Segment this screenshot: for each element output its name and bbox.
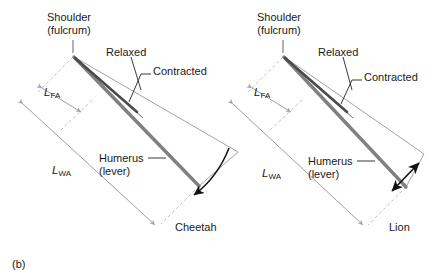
cheetah-lwa-subscript: WA	[58, 169, 71, 178]
cheetah-lfa-subscript: FA	[50, 91, 60, 100]
cheetah-humerus-line1: Humerus	[99, 152, 144, 165]
lion-diagram	[233, 40, 424, 225]
cheetah-shoulder-line1: Shoulder	[47, 11, 91, 24]
cheetah-lfa-label: LFA	[44, 86, 60, 101]
lever-diagram-svg	[0, 0, 443, 280]
cheetah-muscle-contracted	[75, 58, 137, 112]
lion-shoulder-fulcrum-label: Shoulder (fulcrum)	[257, 11, 301, 36]
cheetah-dashed-inlever-end	[60, 100, 92, 131]
cheetah-rotation-arrow	[194, 148, 229, 195]
lion-dashed-inlever-end	[268, 100, 302, 132]
panel-caption: (b)	[12, 258, 25, 270]
lion-humerus-line2: (lever)	[308, 168, 353, 181]
lion-muscle-contracted	[285, 58, 347, 112]
lion-relaxed-leader	[343, 57, 352, 90]
cheetah-shoulder-fulcrum-label: Shoulder (fulcrum)	[47, 11, 91, 36]
figure-panel-b: Shoulder (fulcrum) Relaxed Contracted LF…	[0, 0, 443, 280]
lion-shoulder-line2: (fulcrum)	[257, 24, 301, 37]
lion-dashed-humerus-end	[368, 187, 406, 225]
lion-relaxed-label: Relaxed	[318, 46, 358, 59]
cheetah-contracted-leader	[129, 74, 141, 102]
lion-animal-label: Lion	[389, 221, 410, 234]
cheetah-humerus-line2: (lever)	[99, 165, 144, 178]
lion-humerus-line1: Humerus	[308, 155, 353, 168]
lion-outer-guide-distal	[406, 154, 424, 187]
lion-lfa-label: LFA	[254, 86, 270, 101]
lion-lfa-subscript: FA	[260, 91, 270, 100]
lion-lwa-label: LWA	[262, 167, 281, 182]
cheetah-animal-label: Cheetah	[175, 221, 217, 234]
lion-contracted-label: Contracted	[364, 71, 418, 84]
cheetah-contracted-label: Contracted	[153, 65, 207, 78]
cheetah-lwa-label: LWA	[52, 164, 71, 179]
lion-humerus-lever-label: Humerus (lever)	[308, 155, 353, 180]
lion-lwa-subscript: WA	[268, 172, 281, 181]
cheetah-dashed-humerus-end	[161, 186, 199, 224]
cheetah-shoulder-line2: (fulcrum)	[47, 24, 91, 37]
cheetah-humerus-lever-label: Humerus (lever)	[99, 152, 144, 177]
cheetah-relaxed-label: Relaxed	[106, 46, 146, 59]
lion-shoulder-line1: Shoulder	[257, 11, 301, 24]
